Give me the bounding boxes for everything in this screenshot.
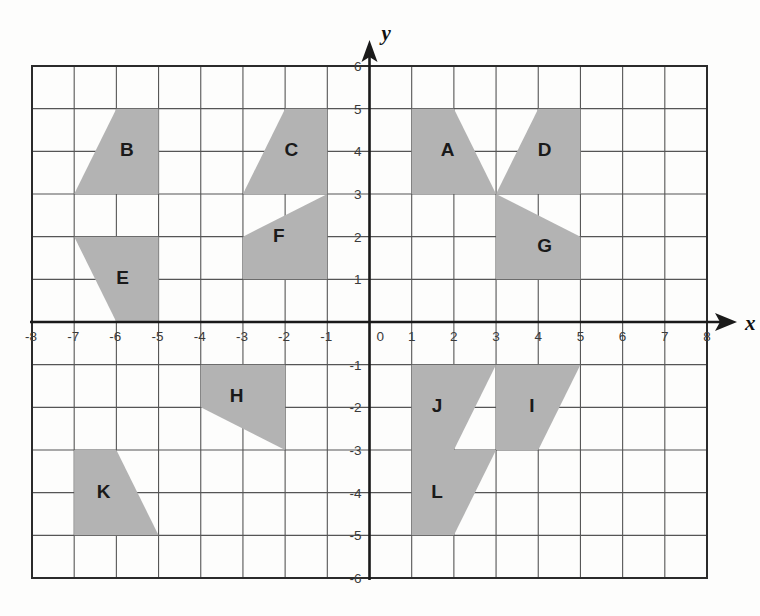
shape-label-c: C xyxy=(285,139,299,160)
shape-label-e: E xyxy=(116,267,129,288)
x-tick-label-7: 7 xyxy=(661,329,669,344)
y-tick-label-3: 3 xyxy=(354,187,362,202)
x-tick-labels: -8-7-6-5-4-3-2-112345678 xyxy=(25,329,711,344)
shape-label-h: H xyxy=(230,385,244,406)
y-tick-label-4: 4 xyxy=(354,144,362,159)
origin-label: 0 xyxy=(377,329,385,344)
x-tick-label-5: 5 xyxy=(577,329,585,344)
x-tick-label-6: 6 xyxy=(619,329,627,344)
y-tick-label-neg6: -6 xyxy=(349,571,361,586)
x-tick-label--6: -6 xyxy=(109,329,121,344)
coordinate-plane-svg: -8-7-6-5-4-3-2-112345678 654321-1-2-3-4-… xyxy=(0,0,760,616)
x-tick-label--8: -8 xyxy=(25,329,37,344)
y-tick-label-6: 6 xyxy=(354,59,362,74)
x-tick-label-3: 3 xyxy=(492,329,500,344)
origin-label-layer: 0 xyxy=(377,329,385,344)
y-tick-label-2: 2 xyxy=(354,230,362,245)
shape-label-b: B xyxy=(120,139,134,160)
x-tick-label-2: 2 xyxy=(450,329,458,344)
shape-label-g: G xyxy=(537,235,552,256)
shape-label-l: L xyxy=(431,481,443,502)
y-tick-label-neg1: -1 xyxy=(349,358,361,373)
y-tick-label-neg2: -2 xyxy=(349,400,361,415)
x-tick-label-4: 4 xyxy=(534,329,542,344)
y-tick-label-5: 5 xyxy=(354,102,362,117)
y-tick-label-neg5: -5 xyxy=(349,528,361,543)
coordinate-grid-figure: -8-7-6-5-4-3-2-112345678 654321-1-2-3-4-… xyxy=(0,0,760,616)
shape-label-f: F xyxy=(273,225,285,246)
x-tick-label--5: -5 xyxy=(152,329,164,344)
x-tick-label--1: -1 xyxy=(320,329,332,344)
x-tick-label--7: -7 xyxy=(67,329,79,344)
shape-label-i: I xyxy=(529,395,534,416)
shape-label-d: D xyxy=(538,139,552,160)
x-tick-label-1: 1 xyxy=(408,329,416,344)
y-tick-label-1: 1 xyxy=(354,272,362,287)
y-axis-name-label: y xyxy=(379,21,392,45)
x-tick-label--3: -3 xyxy=(236,329,248,344)
y-tick-label-neg4: -4 xyxy=(349,486,361,501)
shape-label-j: J xyxy=(432,395,443,416)
y-tick-label-neg3: -3 xyxy=(349,443,361,458)
x-tick-label--2: -2 xyxy=(278,329,290,344)
x-tick-label-8: 8 xyxy=(703,329,711,344)
shape-label-k: K xyxy=(97,481,111,502)
x-axis-name-label: x xyxy=(744,311,756,335)
x-tick-label--4: -4 xyxy=(194,329,206,344)
shape-label-a: A xyxy=(441,139,455,160)
